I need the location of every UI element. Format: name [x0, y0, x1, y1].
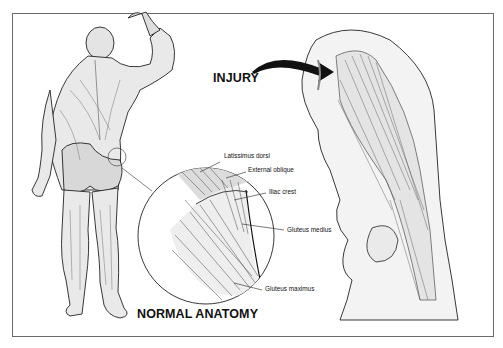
- injury-hip-detail: [252, 30, 458, 320]
- label-latissimus-dorsi: Latissimus dorsi: [224, 152, 270, 159]
- label-iliac-crest: Iliac crest: [269, 188, 296, 195]
- label-gluteus-maximus: Gluteus maximus: [265, 285, 314, 292]
- zoom-connector-line: [122, 168, 152, 191]
- normal-anatomy-title: NORMAL ANATOMY: [137, 307, 258, 321]
- anatomy-illustration: [0, 0, 503, 348]
- label-gluteus-medius: Gluteus medius: [287, 226, 331, 233]
- injury-title: INJURY: [213, 71, 259, 85]
- label-external-oblique: External oblique: [248, 166, 294, 173]
- magnified-detail-circle: [138, 162, 284, 304]
